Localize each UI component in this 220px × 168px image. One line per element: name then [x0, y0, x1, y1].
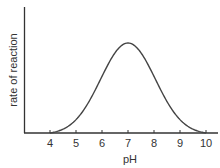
x-axis-label: pH: [123, 153, 137, 165]
chart-canvas: [0, 0, 220, 168]
rate-curve: [50, 43, 206, 133]
x-tick-label: 4: [47, 137, 53, 149]
y-axis-label: rate of reaction: [7, 33, 19, 106]
x-tick-label: 6: [99, 137, 105, 149]
x-tick-label: 10: [200, 137, 212, 149]
x-tick-label: 9: [177, 137, 183, 149]
x-tick-label: 5: [73, 137, 79, 149]
x-tick-label: 8: [151, 137, 157, 149]
x-tick-label: 7: [125, 137, 131, 149]
